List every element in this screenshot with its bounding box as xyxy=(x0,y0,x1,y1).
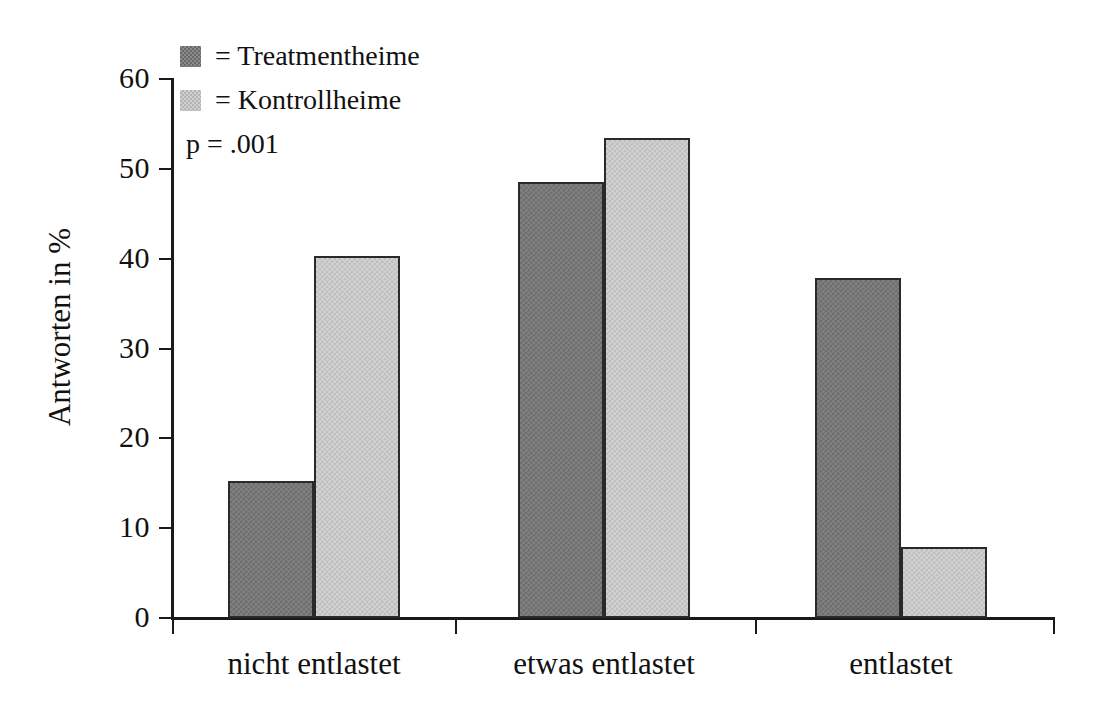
y-tick-label-0: 0 xyxy=(135,602,151,632)
y-tick-label-wrap-20: 20 xyxy=(0,422,150,452)
y-tick-label-40: 40 xyxy=(119,243,150,273)
y-tick-label-wrap-30: 30 xyxy=(0,333,150,363)
y-tick-label-wrap-10: 10 xyxy=(0,512,150,542)
x-category-label-2: entlastet xyxy=(726,645,1076,683)
x-group-tick-1 xyxy=(455,619,457,634)
plot-area xyxy=(173,79,1055,618)
y-tick-label-30: 30 xyxy=(119,333,150,363)
y-tick-40 xyxy=(159,258,174,260)
bar-chart: = Treatmentheime = Kontrollheime p = .00… xyxy=(0,0,1107,718)
y-tick-label-wrap-50: 50 xyxy=(0,153,150,183)
y-tick-label-50: 50 xyxy=(119,153,150,183)
legend-item-treatmentheime: = Treatmentheime xyxy=(180,34,420,78)
y-tick-label-10: 10 xyxy=(119,512,150,542)
y-tick-20 xyxy=(159,437,174,439)
dark-hatch-swatch-icon xyxy=(180,46,201,67)
bar-kontrollheime-2 xyxy=(901,547,987,618)
bar-treatmentheime-0 xyxy=(228,481,314,618)
x-group-tick-3 xyxy=(1053,619,1055,634)
x-group-tick-2 xyxy=(755,619,757,634)
legend-label-treatmentheime: = Treatmentheime xyxy=(215,41,420,71)
y-tick-label-60: 60 xyxy=(119,63,150,93)
x-group-tick-0 xyxy=(172,619,174,634)
bar-kontrollheime-0 xyxy=(314,256,400,618)
y-tick-10 xyxy=(159,527,174,529)
bar-treatmentheime-2 xyxy=(815,278,901,618)
bar-kontrollheime-1 xyxy=(604,138,690,618)
y-tick-label-wrap-0: 0 xyxy=(0,602,150,632)
y-tick-50 xyxy=(159,168,174,170)
y-tick-label-wrap-40: 40 xyxy=(0,243,150,273)
bar-treatmentheime-1 xyxy=(518,182,604,618)
y-tick-label-20: 20 xyxy=(119,422,150,452)
y-tick-label-wrap-60: 60 xyxy=(0,63,150,93)
y-tick-30 xyxy=(159,348,174,350)
y-tick-60 xyxy=(159,78,174,80)
